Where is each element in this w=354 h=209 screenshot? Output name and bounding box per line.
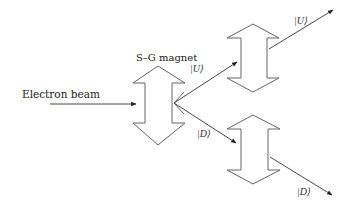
ket-up-1: |U⟩ (190, 63, 204, 74)
electron-beam-label: Electron beam (22, 88, 100, 100)
sg-magnet-3 (227, 115, 280, 184)
ket-up-2: |U⟩ (294, 15, 308, 26)
ket-down-1: |D⟩ (197, 128, 211, 139)
sg-magnet-label: S–G magnet (136, 52, 197, 63)
sg-magnet-2 (227, 24, 279, 92)
stern-gerlach-diagram: Electron beam S–G magnet |U⟩ |D⟩ |U⟩ |D⟩ (0, 0, 354, 209)
split-point (174, 92, 184, 114)
ket-down-3: |D⟩ (297, 186, 311, 197)
